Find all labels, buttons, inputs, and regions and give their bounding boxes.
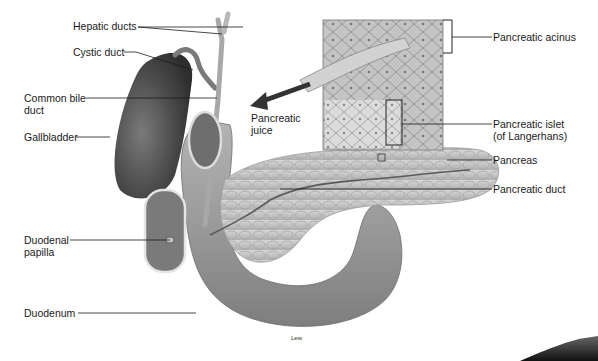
label-pancreatic-juice-line1: Pancreatic — [251, 112, 301, 124]
label-pancreatic-islet-line1: Pancreatic islet — [493, 118, 564, 130]
label-pancreas: Pancreas — [493, 154, 537, 166]
label-pancreatic-juice-line2: juice — [251, 124, 273, 136]
anatomy-diagram: Hepatic ducts Cystic duct Common bile du… — [0, 0, 598, 361]
label-pancreatic-islet-line2: (of Langerhans) — [493, 130, 567, 142]
label-common-bile-duct-line2: duct — [24, 104, 44, 116]
pancreatic-juice-arrow — [260, 84, 310, 102]
islet-region — [325, 100, 400, 148]
label-duodenal-papilla-line2: papilla — [24, 246, 54, 258]
label-duodenal-papilla-line1: Duodenal — [24, 234, 69, 246]
label-pancreatic-acinus: Pancreatic acinus — [493, 31, 576, 43]
artist-credit: Lew — [291, 332, 302, 344]
duodenum-cutaway-lower — [145, 190, 185, 272]
corner-shadow-shape — [520, 336, 598, 361]
gallbladder-shape — [115, 53, 193, 198]
label-gallbladder: Gallbladder — [24, 131, 78, 143]
duodenum-cutaway-upper — [189, 112, 221, 168]
acinus-bracket — [443, 20, 452, 53]
label-common-bile-duct-line1: Common bile — [24, 92, 86, 104]
label-pancreatic-duct: Pancreatic duct — [493, 183, 565, 195]
label-duodenum: Duodenum — [24, 307, 75, 319]
label-hepatic-ducts: Hepatic ducts — [73, 20, 137, 32]
label-cystic-duct: Cystic duct — [73, 46, 124, 58]
